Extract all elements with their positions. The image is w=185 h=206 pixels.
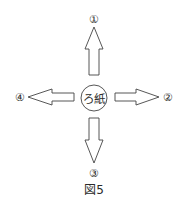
label-up: ① xyxy=(89,13,99,26)
arrow-up xyxy=(85,27,103,75)
label-down: ③ xyxy=(89,167,99,180)
filter-paper-label: ろ紙 xyxy=(83,92,106,106)
diagram-canvas: ろ紙 ① ② ③ ④ 図5 xyxy=(0,0,185,206)
label-right: ② xyxy=(163,91,173,104)
arrow-left xyxy=(28,89,74,105)
arrow-down xyxy=(85,118,103,163)
figure-5: ろ紙 ① ② ③ ④ 図5 xyxy=(0,0,185,206)
arrow-right xyxy=(115,89,159,105)
label-left: ④ xyxy=(15,91,25,104)
figure-caption: 図5 xyxy=(84,183,104,197)
